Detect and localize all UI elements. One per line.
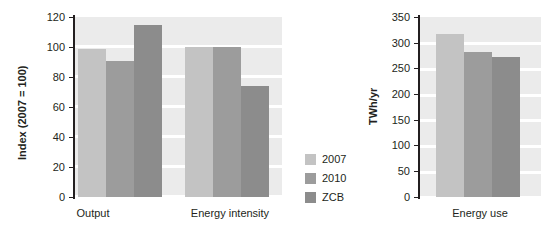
legend-swatch-icon (305, 192, 316, 203)
left-ytick-40: 40 (32, 132, 65, 143)
tick-mark (414, 43, 419, 44)
gridline (75, 45, 282, 48)
bar-output-2007 (78, 49, 106, 198)
right-ytick-150: 150 (377, 115, 410, 126)
tick-mark (414, 197, 419, 198)
right-ytick-350: 350 (377, 12, 410, 23)
tick-mark (414, 94, 419, 95)
right-ytick-200: 200 (377, 89, 410, 100)
right-ytick-100: 100 (377, 140, 410, 151)
right-plot-area (420, 17, 541, 197)
right-ytick-250: 250 (377, 63, 410, 74)
left-ytick-120: 120 (32, 12, 65, 23)
bar-energy-intensity-zcb (241, 86, 269, 197)
tick-mark (414, 120, 419, 121)
tick-mark (69, 107, 74, 108)
bar-output-zcb (134, 25, 162, 198)
left-y-axis-title: Index (2007 = 100) (16, 66, 28, 160)
tick-mark (414, 68, 419, 69)
bar-output-2010 (106, 61, 134, 198)
left-category-energy-intensity: Energy intensity (175, 207, 285, 219)
tick-mark (69, 47, 74, 48)
left-plot-area (75, 17, 282, 197)
tick-mark (69, 77, 74, 78)
left-ytick-20: 20 (32, 162, 65, 173)
bar-energy-use-2007 (436, 34, 464, 197)
left-ytick-60: 60 (32, 102, 65, 113)
tick-mark (414, 17, 419, 18)
bar-energy-use-2010 (464, 52, 492, 197)
right-ytick-300: 300 (377, 38, 410, 49)
figure-root: Index (2007 = 100) (0, 0, 541, 239)
legend-swatch-icon (305, 154, 316, 165)
tick-mark (69, 197, 74, 198)
right-ytick-50: 50 (377, 166, 410, 177)
tick-mark (69, 167, 74, 168)
legend-swatch-icon (305, 173, 316, 184)
legend-label: 2010 (322, 173, 346, 184)
left-category-output: Output (48, 207, 138, 219)
left-chart-panel: Index (2007 = 100) (0, 0, 300, 239)
tick-mark (414, 171, 419, 172)
left-ytick-80: 80 (32, 72, 65, 83)
right-chart-panel: TWh/yr 350 300 250 2 (355, 0, 541, 239)
bar-energy-intensity-2010 (213, 47, 241, 197)
tick-mark (69, 137, 74, 138)
right-ytick-0: 0 (377, 192, 410, 203)
right-category-energy-use: Energy use (425, 207, 535, 219)
legend-label: 2007 (322, 154, 346, 165)
tick-mark (69, 17, 74, 18)
bar-energy-intensity-2007 (185, 47, 213, 197)
legend-label: ZCB (322, 192, 344, 203)
left-ytick-100: 100 (32, 42, 65, 53)
left-ytick-0: 0 (32, 192, 65, 203)
bar-energy-use-zcb (492, 57, 520, 197)
tick-mark (414, 145, 419, 146)
